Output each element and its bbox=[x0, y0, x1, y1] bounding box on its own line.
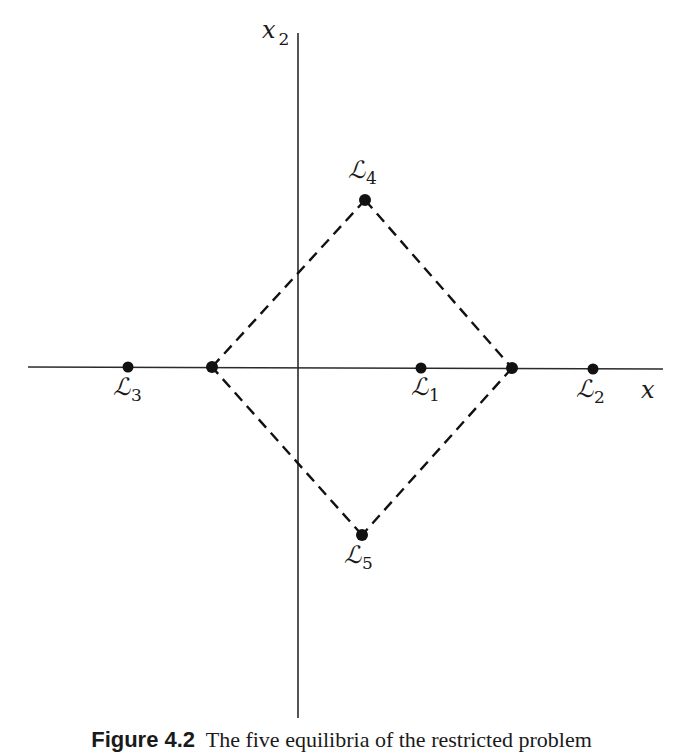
label-L1: ℒ1 bbox=[411, 373, 440, 405]
point-L1 bbox=[416, 363, 427, 374]
x2-axis-label: x2 bbox=[262, 16, 289, 49]
figure-caption: Figure 4.2 The five equilibria of the re… bbox=[0, 727, 683, 753]
x-axis-label: x bbox=[641, 376, 655, 404]
label-L5: ℒ5 bbox=[344, 541, 373, 573]
label-L3: ℒ3 bbox=[113, 373, 142, 405]
label-L2: ℒ2 bbox=[576, 375, 605, 407]
point-L2 bbox=[588, 364, 599, 375]
vertex-left bbox=[206, 361, 218, 373]
label-L4: ℒ4 bbox=[348, 156, 377, 188]
point-L5 bbox=[356, 529, 368, 541]
caption-text: The five equilibria of the restricted pr… bbox=[206, 727, 592, 752]
point-L4 bbox=[359, 194, 371, 206]
point-L3 bbox=[123, 362, 134, 373]
figure-number: Figure 4.2 bbox=[91, 727, 195, 752]
vertex-right bbox=[506, 362, 518, 374]
